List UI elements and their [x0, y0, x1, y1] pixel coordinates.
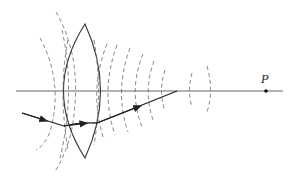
- lens-diagram: [0, 0, 296, 179]
- incoming-wavefronts: [36, 12, 76, 173]
- outgoing-wavefronts: [97, 44, 211, 140]
- point-p-label: P: [261, 73, 268, 86]
- focus-point: [264, 89, 268, 93]
